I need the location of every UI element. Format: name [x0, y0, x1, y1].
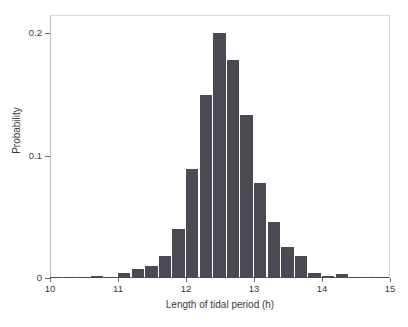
histogram-bar: [240, 115, 252, 278]
y-axis-tick-label: 0: [37, 273, 42, 283]
histogram-bar: [50, 277, 62, 278]
histogram-bar: [104, 277, 116, 278]
y-axis-tick-label: 0.1: [29, 151, 42, 161]
histogram-bar: [268, 222, 280, 278]
x-axis-tick: [118, 278, 119, 282]
y-axis-tick: [45, 33, 50, 34]
x-axis-tick-label: 11: [103, 283, 133, 294]
histogram-bar: [295, 256, 307, 278]
x-axis-tick-label: 13: [239, 283, 269, 294]
histogram-bar: [322, 276, 334, 278]
histogram-bar: [132, 269, 144, 278]
x-axis-label: Length of tidal period (h): [50, 299, 390, 310]
histogram-bar: [145, 266, 157, 278]
histogram-bar: [376, 277, 388, 278]
histogram-bar: [64, 277, 76, 278]
histogram-bar: [159, 256, 171, 278]
histogram-bar: [363, 277, 375, 278]
histogram-figure: 00.10.2 101112131415 Length of tidal per…: [0, 0, 408, 327]
histogram-bar: [349, 277, 361, 278]
x-axis-tick-label: 10: [35, 283, 65, 294]
histogram-bar: [227, 60, 239, 278]
x-axis-tick: [390, 278, 391, 282]
histogram-bar: [254, 183, 266, 278]
histogram-bar: [308, 273, 320, 278]
histogram-bar: [186, 169, 198, 278]
histogram-bar: [77, 277, 89, 278]
histogram-bar: [118, 273, 130, 278]
x-axis-tick-label: 12: [171, 283, 201, 294]
y-axis-tick-label: 0.2: [29, 28, 42, 38]
x-axis-tick-label: 14: [307, 283, 337, 294]
histogram-bar: [281, 247, 293, 278]
histogram-bar: [172, 229, 184, 278]
x-axis-tick: [254, 278, 255, 282]
bars-layer: [50, 15, 390, 278]
x-axis-tick-label: 15: [375, 283, 405, 294]
histogram-bar: [213, 33, 225, 278]
x-axis-tick: [186, 278, 187, 282]
y-axis-tick: [45, 156, 50, 157]
y-axis-label: Probability: [11, 71, 22, 191]
x-axis-tick: [50, 278, 51, 282]
histogram-bar: [336, 274, 348, 278]
x-axis-tick: [322, 278, 323, 282]
histogram-bar: [200, 95, 212, 278]
histogram-bar: [91, 276, 103, 278]
